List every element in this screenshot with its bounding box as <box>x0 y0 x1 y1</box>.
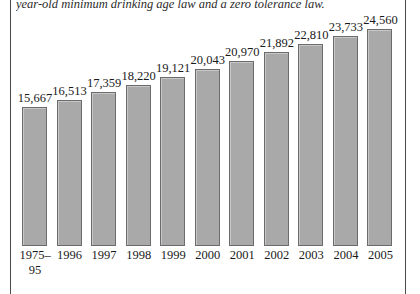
bar[interactable] <box>264 52 289 246</box>
bar-group: 21,892 <box>260 16 294 246</box>
bar[interactable] <box>229 61 254 247</box>
page-rule-right <box>405 0 406 294</box>
bar-group: 17,359 <box>87 16 121 246</box>
bar[interactable] <box>367 29 392 246</box>
bar[interactable] <box>22 107 47 246</box>
figure-panel: year-old minimum drinking age law and a … <box>0 0 420 294</box>
bar[interactable] <box>195 69 220 246</box>
bar-group: 15,667 <box>18 16 52 246</box>
bar-group: 16,513 <box>53 16 87 246</box>
page-rule-left <box>10 0 11 294</box>
bar[interactable] <box>57 100 82 246</box>
bar-group: 19,121 <box>156 16 190 246</box>
bar-group: 23,733 <box>329 16 363 246</box>
bar[interactable] <box>333 36 358 246</box>
bar-group: 20,970 <box>225 16 259 246</box>
bar[interactable] <box>298 44 323 246</box>
bar-value-label: 24,560 <box>353 14 407 27</box>
bar[interactable] <box>126 85 151 246</box>
bar[interactable] <box>91 92 116 246</box>
bar[interactable] <box>160 77 185 246</box>
x-axis-labels: 1975–95199619971998199920002001200220032… <box>18 248 398 288</box>
bar-chart-plot-area: 15,66716,51317,35918,22019,12120,04320,9… <box>18 16 398 246</box>
bar-group: 18,220 <box>122 16 156 246</box>
bar-group: 24,560 <box>363 16 397 246</box>
figure-caption: year-old minimum drinking age law and a … <box>16 0 400 12</box>
x-axis-tick-label: 2005 <box>358 248 402 263</box>
bar-group: 22,810 <box>294 16 328 246</box>
